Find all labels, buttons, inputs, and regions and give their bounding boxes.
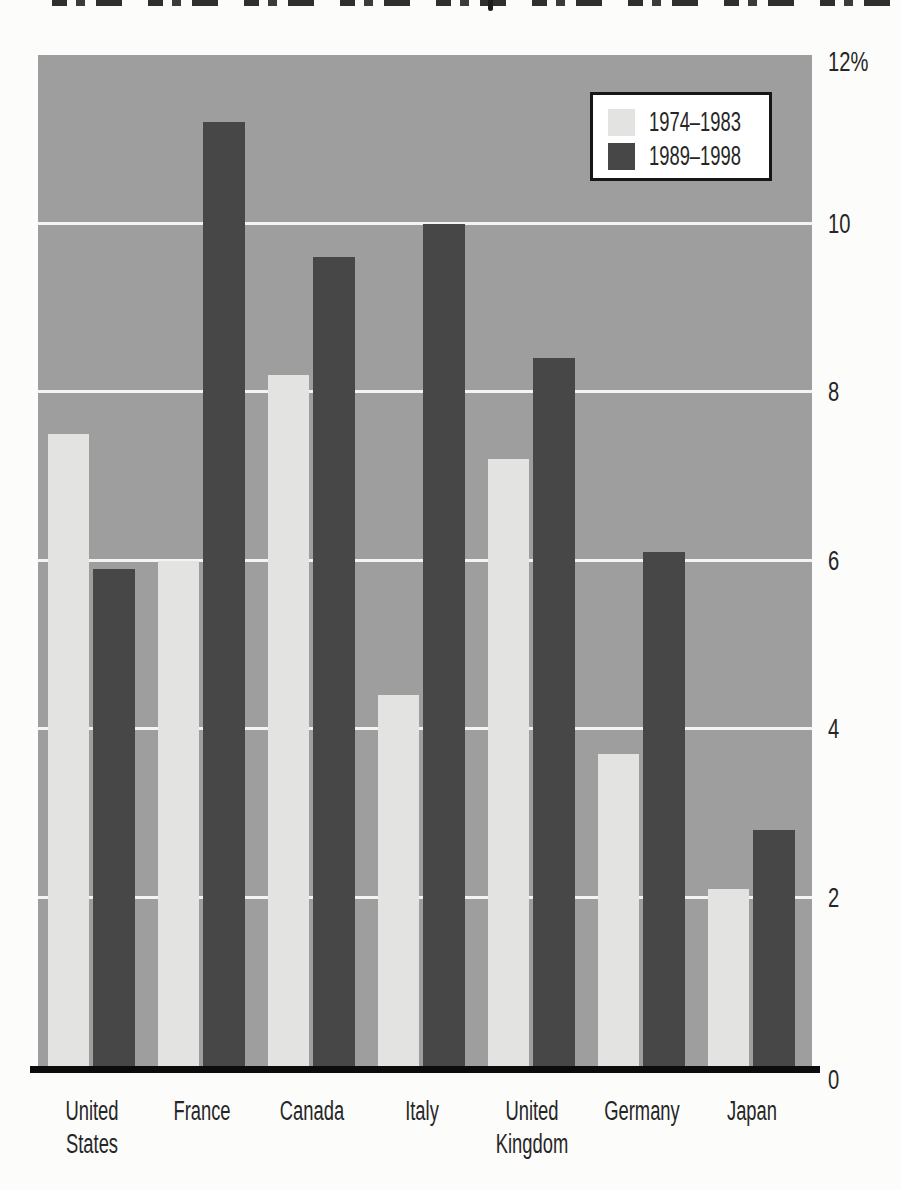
category-label-germany: Germany: [604, 1095, 680, 1128]
y-tick-10: 10: [828, 208, 850, 240]
bar-dark-united-kingdom: [533, 358, 575, 1066]
bar-light-japan: [708, 889, 749, 1066]
bar-light-france: [158, 561, 199, 1067]
bar-light-italy: [378, 695, 419, 1066]
cropped-title-fragments: [52, 0, 898, 6]
legend-swatch-1974-1983: [608, 109, 635, 136]
category-label-italy: Italy: [405, 1095, 439, 1128]
y-tick-12: 12%: [828, 46, 868, 78]
bar-light-canada: [268, 375, 309, 1066]
plot-area: [38, 55, 812, 1066]
category-label-united-kingdom: United Kingdom: [495, 1095, 567, 1161]
x-axis-line: [30, 1066, 820, 1073]
legend-item-1974-1983: 1974–1983: [608, 108, 784, 136]
y-tick-0: 0: [828, 1064, 839, 1096]
y-tick-8: 8: [828, 376, 839, 408]
legend-label-1989-1998: 1989–1998: [649, 142, 741, 170]
bar-light-germany: [598, 754, 639, 1066]
category-label-france: France: [173, 1095, 230, 1128]
legend-label-1974-1983: 1974–1983: [649, 108, 741, 136]
bar-dark-united-states: [93, 569, 135, 1066]
cropped-title-comma-fragment: [488, 0, 493, 11]
bar-light-united-kingdom: [488, 459, 529, 1066]
bar-dark-italy: [423, 224, 465, 1067]
legend: 1974–1983 1989–1998: [590, 92, 772, 181]
legend-swatch-1989-1998: [608, 143, 635, 170]
category-label-united-states: United States: [65, 1095, 118, 1161]
bar-dark-japan: [753, 830, 795, 1066]
y-tick-6: 6: [828, 545, 839, 577]
y-tick-4: 4: [828, 713, 839, 745]
bar-dark-germany: [643, 552, 685, 1066]
bar-dark-france: [203, 122, 245, 1066]
y-tick-2: 2: [828, 882, 839, 914]
bar-light-united-states: [48, 434, 89, 1066]
legend-item-1989-1998: 1989–1998: [608, 142, 784, 170]
bar-dark-canada: [313, 257, 355, 1066]
category-label-canada: Canada: [279, 1095, 343, 1128]
category-label-japan: Japan: [726, 1095, 776, 1128]
